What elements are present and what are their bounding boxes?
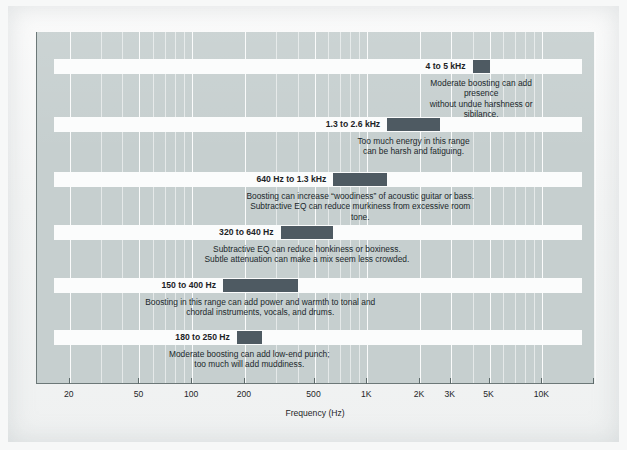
axis-title: Frequency (Hz) [36, 408, 594, 418]
axis-tick-label: 5K [483, 389, 494, 399]
band-label: 4 to 5 kHz [426, 60, 466, 73]
axis-tick [419, 378, 420, 384]
band-track [54, 330, 582, 345]
frequency-axis: 20501002005001K2K3K5K10K Frequency (Hz) [36, 384, 594, 444]
band-label: 150 to 400 Hz [162, 279, 216, 292]
band-caption: Boosting in this range can add power and… [145, 297, 375, 318]
band-row: 640 Hz to 1.3 kHz [37, 172, 594, 187]
axis-tick-end [593, 378, 594, 384]
axis-tick [191, 378, 192, 384]
axis-tick [244, 378, 245, 384]
axis-tick-label: 50 [134, 389, 144, 399]
axis-tick [450, 378, 451, 384]
band-row: 180 to 250 Hz [37, 330, 594, 345]
band-label: 320 to 640 Hz [219, 226, 273, 239]
axis-tick [314, 378, 315, 384]
axis-tick [69, 378, 70, 384]
axis-tick-label: 10K [534, 389, 549, 399]
band-caption: Boosting can increase “woodiness” of aco… [243, 191, 477, 222]
band-caption: Subtractive EQ can reduce honkiness or b… [205, 244, 410, 265]
band-label: 640 Hz to 1.3 kHz [257, 173, 327, 186]
axis-tick [138, 378, 139, 384]
axis-tick-label: 20 [64, 389, 74, 399]
band-row: 150 to 400 Hz [37, 278, 594, 293]
band-caption: Too much energy in this range can be har… [357, 136, 469, 157]
band-range-block[interactable] [387, 118, 440, 131]
band-track [54, 59, 582, 74]
axis-tick-label: 3K [444, 389, 455, 399]
band-range-block[interactable] [237, 331, 262, 344]
axis-tick [489, 378, 490, 384]
band-range-block[interactable] [223, 279, 298, 292]
frequency-chart: 4 to 5 kHzModerate boosting can add pres… [36, 32, 594, 384]
band-track [54, 278, 582, 293]
band-row: 320 to 640 Hz [37, 225, 594, 240]
band-label: 1.3 to 2.6 kHz [326, 118, 380, 131]
axis-tick-label: 500 [306, 389, 320, 399]
axis-tick-label: 100 [184, 389, 198, 399]
axis-tick [366, 378, 367, 384]
band-caption: Moderate boosting can add low-end punch;… [169, 349, 330, 370]
band-range-block[interactable] [333, 173, 387, 186]
axis-tick [541, 378, 542, 384]
band-track [54, 117, 582, 132]
gridline-minor [595, 32, 596, 383]
band-row: 1.3 to 2.6 kHz [37, 117, 594, 132]
band-row: 4 to 5 kHz [37, 59, 594, 74]
band-range-block[interactable] [281, 226, 334, 239]
band-label: 180 to 250 Hz [175, 331, 229, 344]
axis-tick-label: 1K [361, 389, 372, 399]
axis-tick-label: 200 [237, 389, 251, 399]
axis-tick-label: 2K [414, 389, 425, 399]
band-range-block[interactable] [473, 60, 490, 73]
band-caption: Moderate boosting can add presence witho… [425, 78, 538, 120]
page-root: 4 to 5 kHzModerate boosting can add pres… [0, 0, 627, 450]
